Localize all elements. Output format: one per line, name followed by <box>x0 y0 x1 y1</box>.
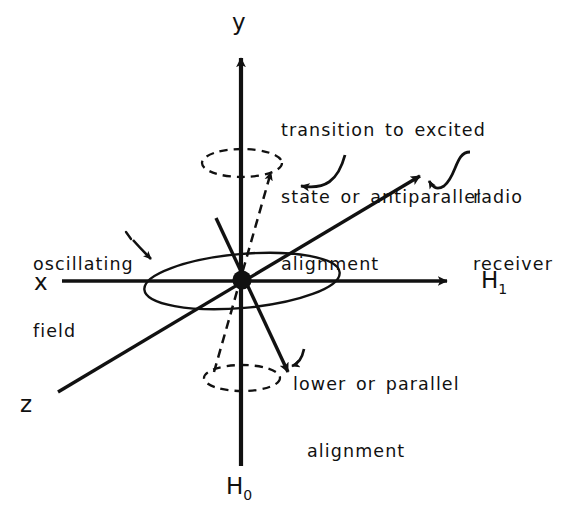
nmr-precession-diagram: y x z H1 H0 transition to excited state … <box>0 0 587 520</box>
axis-label-h0-subscript: 0 <box>243 487 252 503</box>
axis-label-z: z <box>20 390 32 419</box>
annotation-radio-receiver: radio receiver <box>473 141 553 320</box>
annotation-oscillating-line-2: field <box>33 320 134 342</box>
annotation-transition: transition to excited state or antiparal… <box>281 74 486 320</box>
origin-dot-shape <box>232 270 251 289</box>
annotation-oscillating-line-1: oscillating <box>33 253 134 275</box>
annotation-oscillating-field: oscillating field <box>33 208 134 387</box>
axis-label-y: y <box>232 8 246 37</box>
origin-dot <box>232 270 251 289</box>
axis-label-h0-base: H <box>226 473 243 499</box>
annotation-receiver-line-2: receiver <box>473 253 553 275</box>
annotation-lower-line-2: alignment <box>307 440 460 462</box>
axis-label-h0: H0 <box>226 472 252 505</box>
annotation-transition-line-1: transition to excited <box>281 119 486 141</box>
annotation-receiver-line-1: radio <box>473 186 553 208</box>
annotation-lower-line-1: lower or parallel <box>293 373 460 395</box>
annotation-transition-line-3: alignment <box>281 253 486 275</box>
oscillating-pointer-arrow <box>133 240 151 259</box>
annotation-lower-alignment: lower or parallel alignment <box>293 328 460 507</box>
annotation-transition-line-2: state or antiparallel <box>281 186 486 208</box>
